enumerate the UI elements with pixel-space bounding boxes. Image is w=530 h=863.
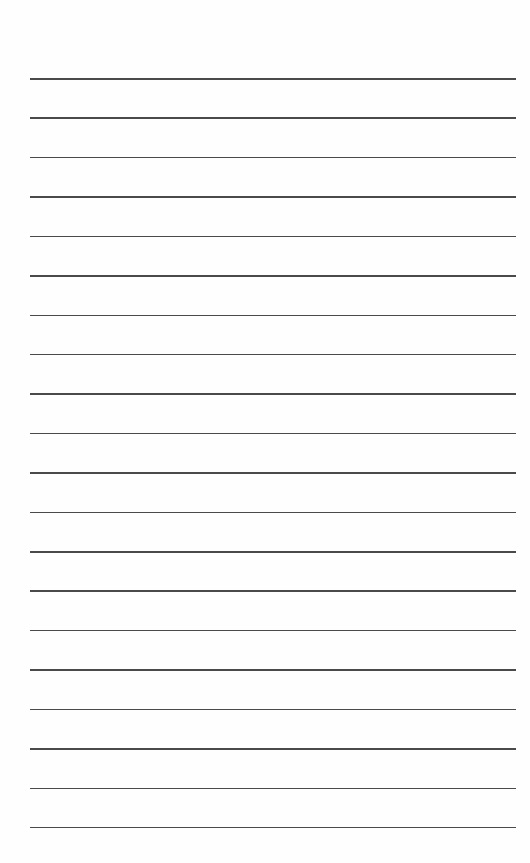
ruled-line bbox=[30, 669, 516, 671]
ruled-line bbox=[30, 315, 516, 317]
ruled-line bbox=[30, 630, 516, 632]
ruled-line bbox=[30, 827, 516, 829]
ruled-line bbox=[30, 157, 516, 159]
lined-paper-page bbox=[0, 0, 530, 863]
ruled-line bbox=[30, 393, 516, 395]
ruled-line bbox=[30, 275, 516, 277]
ruled-line bbox=[30, 433, 516, 435]
ruled-line bbox=[30, 196, 516, 198]
ruled-line bbox=[30, 709, 516, 711]
ruled-line bbox=[30, 512, 516, 514]
ruled-line bbox=[30, 117, 516, 119]
ruled-line bbox=[30, 551, 516, 553]
ruled-line bbox=[30, 472, 516, 474]
ruled-line bbox=[30, 590, 516, 592]
ruled-line bbox=[30, 354, 516, 356]
ruled-line bbox=[30, 78, 516, 80]
ruled-line bbox=[30, 748, 516, 750]
ruled-line bbox=[30, 788, 516, 790]
ruled-line bbox=[30, 236, 516, 238]
